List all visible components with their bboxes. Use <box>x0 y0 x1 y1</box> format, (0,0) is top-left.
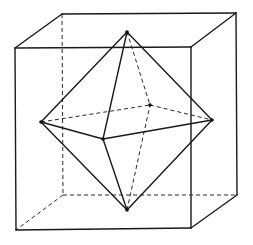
octahedron-vertex-back <box>148 103 152 107</box>
octahedron-vertex-top <box>125 30 129 34</box>
cube-edge-front-top-left-to-front-top-right <box>15 47 191 48</box>
cube-edge-back-top-left-to-back-bottom-left-hidden <box>62 14 63 195</box>
cube-edge-back-top-left-to-back-top-right <box>62 13 236 14</box>
octahedron-edge-bottom-to-left <box>41 122 127 210</box>
octahedron-edge-left-to-back-hidden <box>41 105 150 122</box>
octahedron-vertex-bottom <box>125 208 129 212</box>
octahedron-vertex-front <box>101 137 105 141</box>
cube-edge-front-bottom-left-to-front-top-left <box>15 48 16 230</box>
octahedron-vertex-right <box>210 118 214 122</box>
octahedron-edge-left-to-front <box>41 122 103 139</box>
octahedron-edge-top-to-left <box>41 32 127 122</box>
octahedron-edge-bottom-to-right <box>127 120 212 210</box>
cube-edge-front-bottom-right-to-front-bottom-left <box>16 228 191 230</box>
cube-edge-back-bottom-left-to-front-bottom-left-hidden <box>16 195 63 230</box>
cube-edge-back-top-right-to-back-bottom-right <box>236 13 237 195</box>
octahedron <box>39 30 214 212</box>
cube-edge-front-bottom-right-to-back-bottom-right <box>191 195 237 228</box>
octahedron-edge-bottom-to-back-hidden <box>127 105 150 210</box>
octahedron-edge-back-to-right-hidden <box>150 105 212 120</box>
cube-edge-front-top-left-to-back-top-left <box>15 14 62 48</box>
cube-octahedron-diagram <box>0 0 253 245</box>
cube-edge-front-top-right-to-back-top-right <box>191 13 236 47</box>
octahedron-vertex-left <box>39 120 43 124</box>
octahedron-edge-front-to-right <box>103 120 212 139</box>
octahedron-edge-bottom-to-front <box>103 139 127 210</box>
